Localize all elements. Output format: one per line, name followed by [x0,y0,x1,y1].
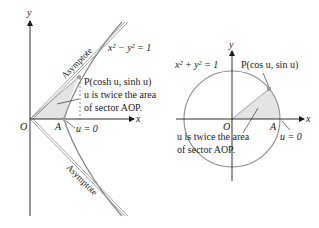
hyperbola-point-label: P(cosh u, sinh u) [84,76,151,88]
hyperbola-vertex-label: A [54,121,62,132]
circle-area-note-2: of sector AOP. [177,144,235,155]
circle-panel: y x x² + y² = 1 P(cos u, sin u) O A u = … [174,39,311,181]
hyperbola-panel: y x x² − y² = 1 P(cosh u, sinh u) u is t… [20,7,157,216]
hyperbola-u-zero-label: u = 0 [76,123,98,134]
circle-point-label: P(cos u, sin u) [241,59,298,71]
circle-area-note-1: u is twice the area [177,131,250,142]
y-axis-label-left: y [26,7,32,18]
circle-u-zero-leader [282,121,290,130]
circle-vertex-label: A [269,121,277,132]
hyperbola-equation: x² − y² = 1 [107,42,151,53]
point-p-hyperbola [77,75,81,79]
hyperbola-origin-label: O [20,121,27,132]
u-zero-leader [66,121,75,128]
hyperbola-area-note-2: of sector AOP. [84,102,142,113]
y-axis-label-right: y [228,39,234,50]
x-axis-label-left: x [135,113,141,124]
x-axis-label-right: x [305,113,311,124]
point-a-hyperbola [62,117,66,121]
hyperbola-area-note-1: u is twice the area [84,89,157,100]
diagram-canvas: y x x² − y² = 1 P(cosh u, sinh u) u is t… [0,0,319,228]
circle-equation: x² + y² = 1 [174,59,218,70]
point-p-circle [267,87,271,91]
circle-u-zero-label: u = 0 [280,131,302,142]
figure: y x x² − y² = 1 P(cosh u, sinh u) u is t… [0,0,319,228]
